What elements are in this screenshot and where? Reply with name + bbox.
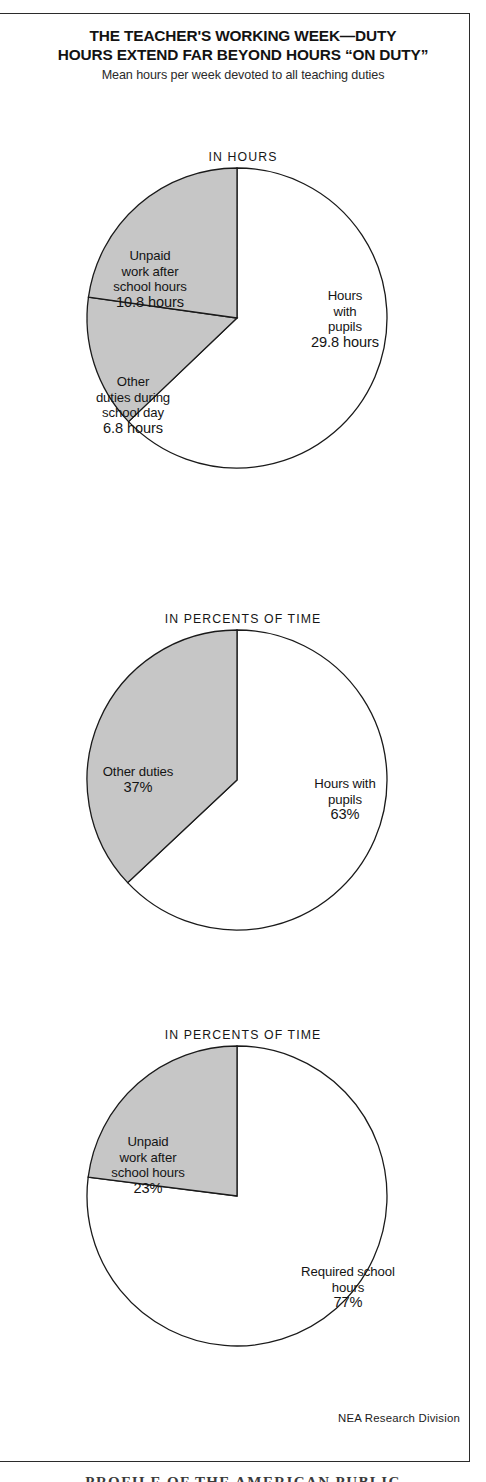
chart-title-2: IN PERCENTS OF TIME [0,1028,486,1042]
chart-title-1: IN PERCENTS OF TIME [0,612,486,626]
pie-slice-value: 10.8 hours [70,295,230,311]
pie-slice-value: 63% [265,807,425,823]
chart-block-percent-duties: IN PERCENTS OF TIME Hours with pupils63%… [0,612,486,938]
pie-slice-value: 6.8 hours [53,421,213,437]
pie-slice-label: Other duties during school day6.8 hours [53,374,213,436]
chart-block-percent-unpaid: IN PERCENTS OF TIME Required school hour… [0,1028,486,1354]
pie-slice-label: Unpaid work after school hours10.8 hours [70,248,230,310]
chart-title-0: IN HOURS [0,150,486,164]
bleed-caption: PROFILE OF THE AMERICAN PUBLIC [0,1470,486,1482]
pie-chart-percent-unpaid: Required school hours77%Unpaid work afte… [0,1044,486,1354]
pie-slice-value: 77% [268,1295,428,1311]
credit-line: NEA Research Division [338,1412,460,1424]
pie-chart-in-hours: Hours with pupils29.8 hoursOther duties … [0,166,486,476]
page-title: THE TEACHER'S WORKING WEEK—DUTY HOURS EX… [0,26,486,84]
pie-slice-label: Other duties37% [58,764,218,795]
pie-slice-value: 37% [58,780,218,796]
headline-line-2: HOURS EXTEND FAR BEYOND HOURS “ON DUTY” [0,45,486,64]
pie-slice-label: Unpaid work after school hours23% [68,1134,228,1196]
chart-block-in-hours: IN HOURS Hours with pupils29.8 hoursOthe… [0,150,486,476]
pie-slice-value: 29.8 hours [265,335,425,351]
pie-slice-name: Required school hours [268,1264,428,1295]
pie-slice-name: Hours with pupils [265,288,425,335]
pie-slice-name: Unpaid work after school hours [70,248,230,295]
pie-chart-percent-duties: Hours with pupils63%Other duties37% [0,628,486,938]
subtitle: Mean hours per week devoted to all teach… [0,67,486,84]
pie-slice-name: Other duties [58,764,218,780]
pie-slice-label: Hours with pupils29.8 hours [265,288,425,350]
pie-slice-name: Unpaid work after school hours [68,1134,228,1181]
pie-slice-name: Other duties during school day [53,374,213,421]
pie-slice-label: Required school hours77% [268,1264,428,1311]
pie-slice-value: 23% [68,1181,228,1197]
pie-slice-label: Hours with pupils63% [265,776,425,823]
headline-line-1: THE TEACHER'S WORKING WEEK—DUTY [0,26,486,45]
pie-slice-name: Hours with pupils [265,776,425,807]
